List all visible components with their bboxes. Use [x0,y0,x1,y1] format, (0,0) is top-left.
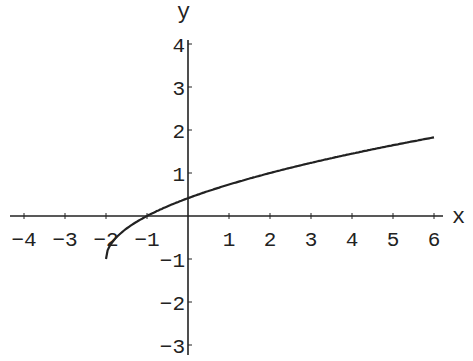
y-tick-label: −2 [160,293,185,316]
x-tick-label: 3 [305,229,318,252]
y-tick-label: 2 [172,121,185,144]
y-axis-label: y [177,0,190,25]
y-tick-label: 1 [172,164,185,187]
y-tick-label: −1 [160,250,185,273]
x-tick-label: 5 [387,229,400,252]
chart: −4−3−2−11234564321−1−2−3 x y [0,0,473,361]
y-tick-label: 4 [172,35,185,58]
x-tick-label: −1 [134,229,159,252]
y-tick-label: 3 [172,78,185,101]
x-axis-label: x [452,205,465,230]
axes [10,40,443,355]
y-tick-label: −3 [160,336,185,359]
x-tick-label: −3 [52,229,77,252]
ticks: −4−3−2−11234564321−1−2−3 [11,35,440,359]
x-tick-label: 2 [264,229,277,252]
x-tick-label: 1 [223,229,236,252]
x-tick-label: −4 [11,229,36,252]
x-tick-label: 6 [428,229,441,252]
x-tick-label: 4 [346,229,359,252]
